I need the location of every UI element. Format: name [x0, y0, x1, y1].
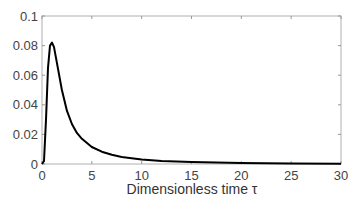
x-axis-label: Dimensionless time τ	[127, 181, 258, 197]
y-tick-label: 0.02	[13, 127, 38, 142]
data-line	[42, 43, 341, 164]
y-tick-label: 0.04	[13, 97, 38, 112]
y-tick-label: 0	[31, 157, 38, 172]
x-tick-label: 30	[334, 168, 348, 183]
x-tick-label: 25	[284, 168, 298, 183]
x-axis: 051015202530	[38, 16, 348, 183]
y-tick-label: 0.06	[13, 68, 38, 83]
line-chart: 00.020.040.060.080.1 051015202530 Dimens…	[0, 0, 360, 209]
y-tick-label: 0.08	[13, 38, 38, 53]
x-tick-label: 0	[38, 168, 45, 183]
x-tick-label: 5	[88, 168, 95, 183]
y-tick-label: 0.1	[20, 9, 38, 24]
